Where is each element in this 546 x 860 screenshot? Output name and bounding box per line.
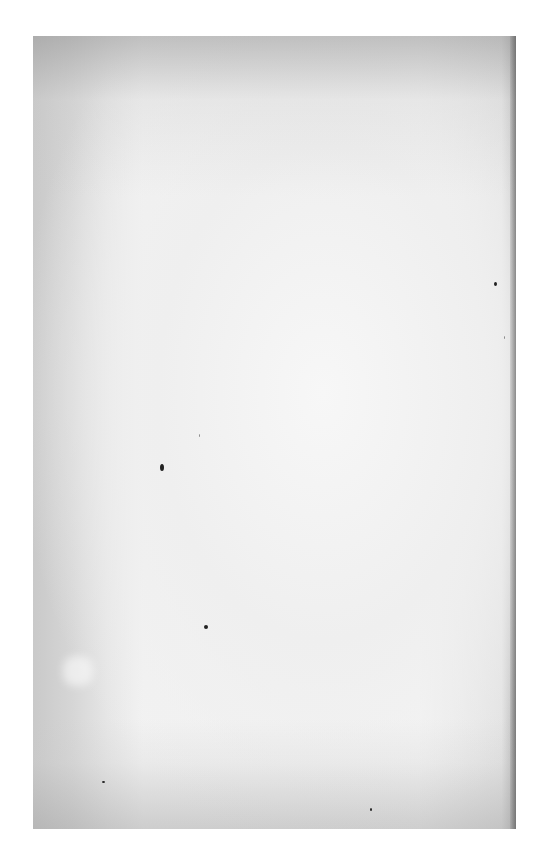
paper-light-patch [63,656,93,686]
ink-speck [204,625,208,629]
ink-speck [494,282,497,286]
ink-speck [504,336,505,339]
bottom-shadow [33,719,516,829]
ink-speck [199,434,200,437]
scanned-blank-page [33,36,516,829]
ink-speck [160,464,164,471]
page-right-edge [510,36,516,829]
ink-speck [370,808,372,811]
top-shadow [33,36,516,196]
ink-speck [102,781,105,783]
